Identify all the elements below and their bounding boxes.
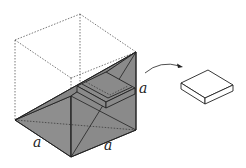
extracted-slab [181, 70, 233, 104]
extract-arrow [145, 64, 183, 74]
cube-diagram: a a a [0, 0, 246, 168]
diagram-svg: a a a [0, 0, 246, 168]
edge-label-right: a [104, 137, 112, 153]
edge-label-left: a [33, 134, 41, 150]
edge-label-vertical: a [139, 80, 147, 96]
